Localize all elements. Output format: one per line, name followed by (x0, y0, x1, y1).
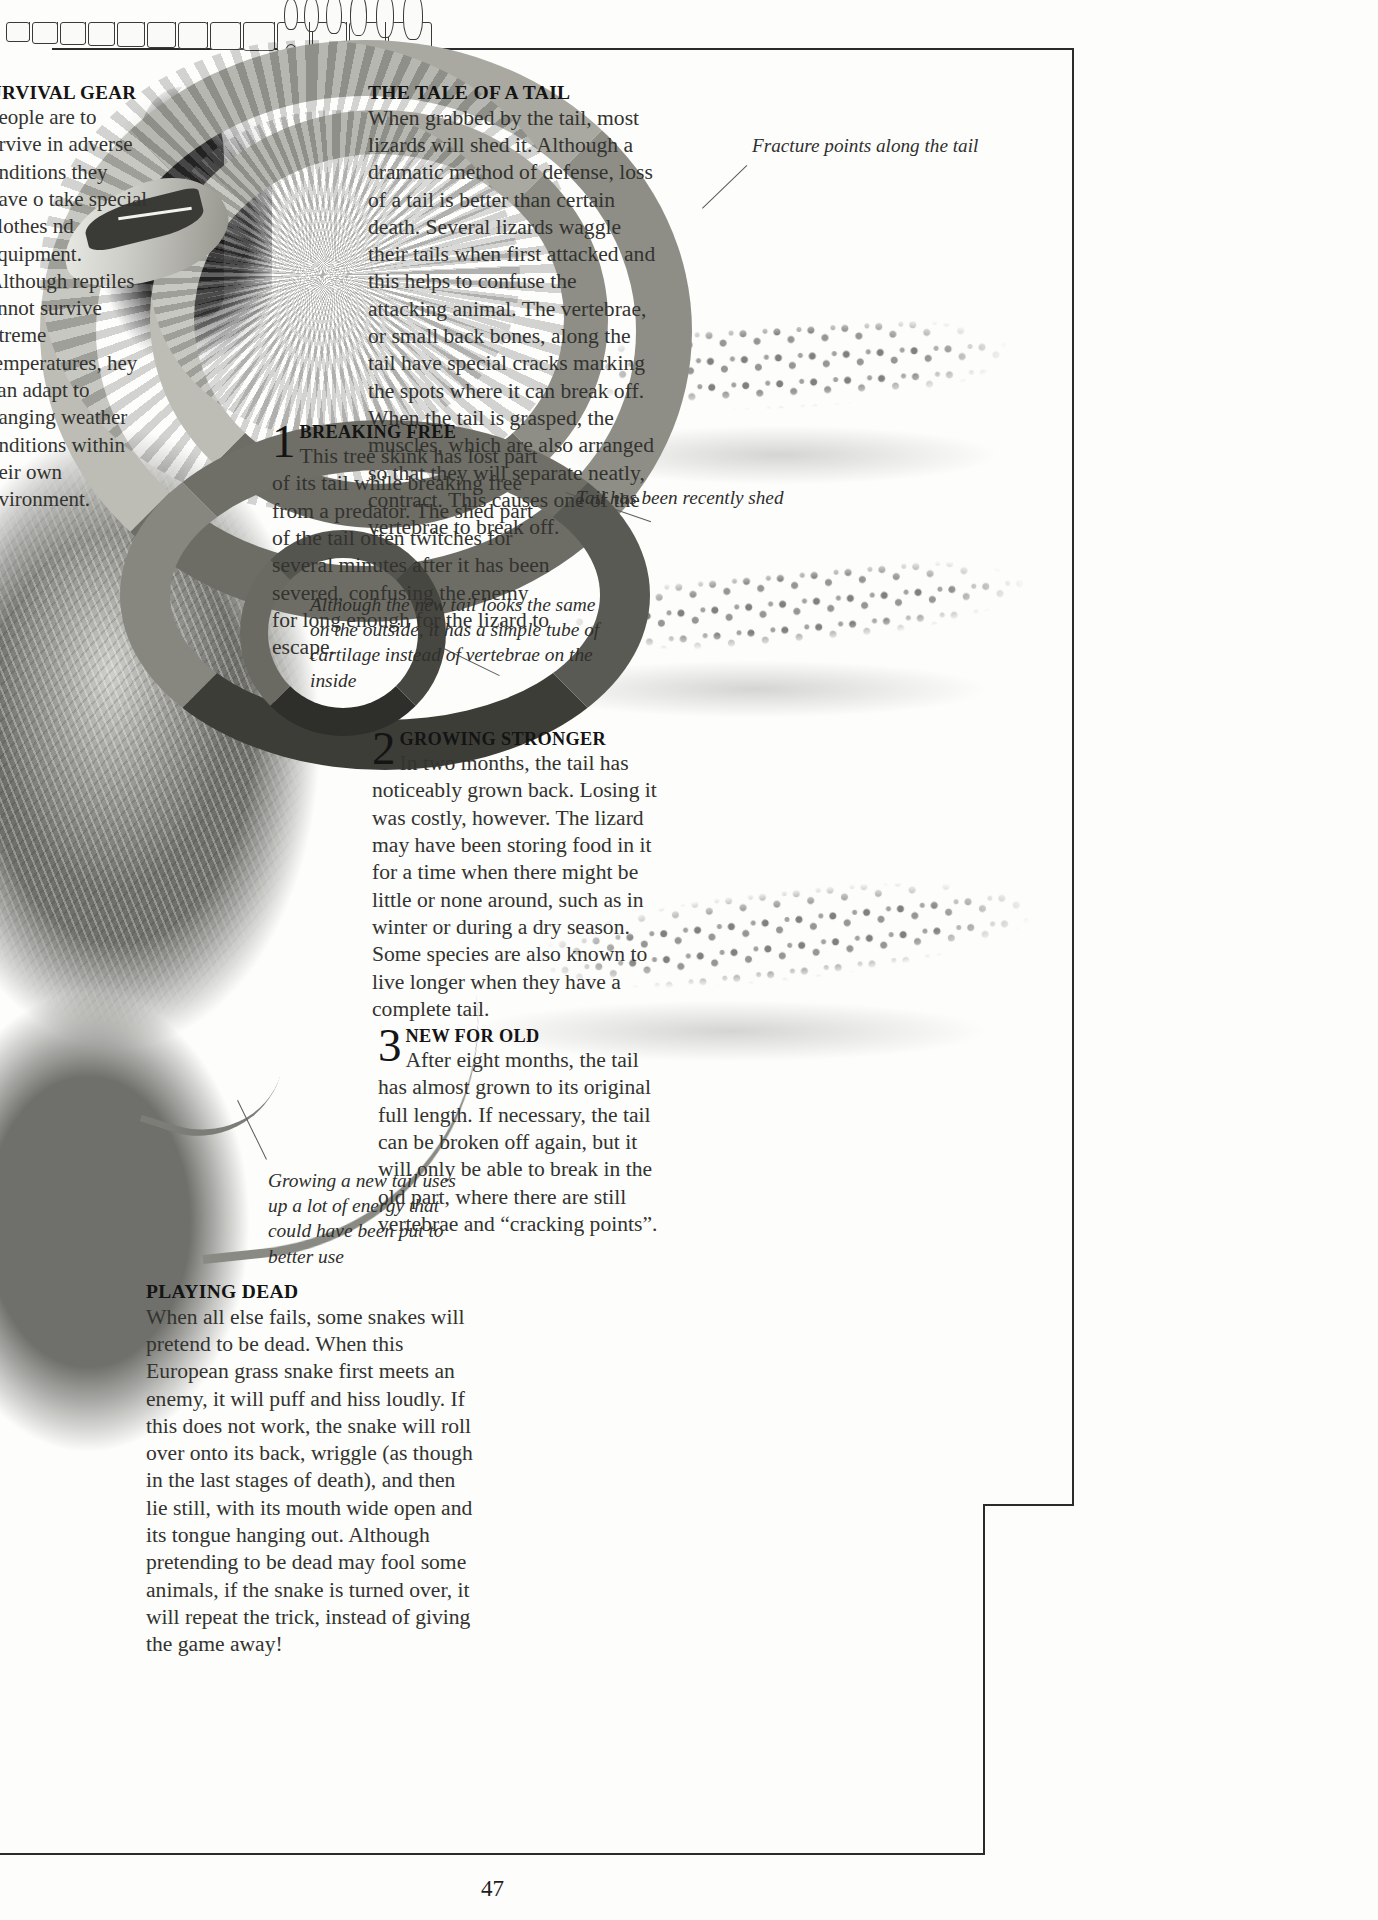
page-border-right-join (985, 1504, 1074, 1506)
page-border-right-lower (983, 1504, 985, 1855)
page-number: 47 (0, 1876, 985, 1902)
survival-gear-heading: URVIVAL GEAR (0, 82, 148, 104)
page-border-bottom (0, 1853, 985, 1855)
playing-dead-body: When all else fails, some snakes will pr… (146, 1304, 476, 1659)
step-3-number: 3 (378, 1027, 402, 1064)
step-1-number: 1 (272, 423, 296, 460)
playing-dead-heading: PLAYING DEAD (146, 1281, 476, 1304)
book-page: URVIVAL GEAR people are to urvive in adv… (0, 0, 1378, 1920)
step-2-body: In two months, the tail has noticeably g… (372, 750, 672, 1023)
leader-line-fracture (702, 165, 747, 209)
step-3-heading: NEW FOR OLD (406, 1026, 540, 1046)
page-border-right (1072, 48, 1074, 1506)
playing-dead-section: PLAYING DEAD When all else fails, some s… (146, 1281, 476, 1659)
step-1-heading: BREAKING FREE (300, 422, 457, 442)
fracture-points-label: Fracture points along the tail (752, 135, 978, 157)
cartilage-annotation: Although the new tail looks the same on … (310, 592, 610, 693)
survival-gear-body: people are to urvive in adverse ondition… (0, 104, 148, 513)
step-2-number: 2 (372, 730, 396, 767)
energy-annotation: Growing a new tail uses up a lot of ener… (268, 1168, 468, 1269)
step-2-heading: GROWING STRONGER (400, 729, 606, 749)
step-growing-stronger: 2 GROWING STRONGER In two months, the ta… (372, 729, 672, 1023)
tail-shed-label: Tail has been recently shed (576, 487, 783, 509)
survival-gear-section: URVIVAL GEAR people are to urvive in adv… (0, 82, 148, 513)
tale-of-a-tail-heading: THE TALE OF A TAIL (368, 82, 660, 105)
